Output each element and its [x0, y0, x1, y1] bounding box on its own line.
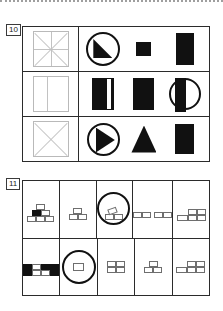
selection-circle-mark — [62, 250, 96, 284]
small-filled-square-icon — [136, 42, 151, 56]
option-cell-two-brick-pairs-row[interactable] — [133, 181, 173, 238]
circle-with-right-pointing-filled-triangle-icon — [87, 123, 120, 156]
options-row — [79, 117, 209, 161]
item-10-matrix-grid — [22, 26, 210, 162]
circle-with-filled-left-half-icon — [169, 78, 201, 110]
filled-rectangle-icon — [133, 78, 154, 110]
circle-with-filled-quarter-wedge-icon — [86, 32, 120, 66]
option-cell-brick-stack-2-1[interactable] — [60, 181, 97, 238]
option-cell[interactable] — [83, 72, 123, 116]
option-cell-brick-block-2x2[interactable] — [98, 239, 135, 296]
brick-block-2x2-icon — [107, 261, 125, 273]
option-row — [23, 239, 209, 296]
option-cell[interactable] — [124, 27, 164, 71]
item-10-block: 10 — [22, 26, 210, 162]
brick-stack-2-1-icon — [144, 261, 162, 273]
brick-stack-2-1-icon — [69, 208, 87, 220]
option-cell-single-brick[interactable] — [60, 239, 97, 296]
options-row — [79, 72, 209, 116]
item-11-block: 11 — [22, 180, 210, 296]
matrix-row — [23, 27, 209, 72]
options-row — [79, 27, 209, 71]
matrix-row — [23, 72, 209, 117]
square-with-vertical-line-icon — [33, 76, 69, 112]
brick-pyramid-3-2-1-icon — [27, 204, 54, 222]
filled-rectangle-icon — [175, 124, 194, 154]
option-cell-brick-stack-2-1[interactable] — [135, 239, 172, 296]
stem-cell[interactable] — [23, 72, 79, 116]
brick-checker-pattern-icon — [23, 264, 59, 276]
scan-edge-dashed-line — [0, 0, 223, 8]
item-11-option-grid — [22, 180, 210, 296]
matrix-row — [23, 117, 209, 161]
two-brick-pairs-row-icon — [133, 212, 172, 218]
stem-cell[interactable] — [23, 117, 79, 161]
option-cell[interactable] — [165, 27, 205, 71]
option-cell[interactable] — [165, 72, 205, 116]
option-cell[interactable] — [124, 72, 164, 116]
option-cell-brick-row-1-plus-2x2[interactable] — [173, 239, 209, 296]
item-number-11: 11 — [6, 178, 20, 190]
option-cell-brick-checker-pattern[interactable] — [23, 239, 60, 296]
option-cell[interactable] — [83, 27, 123, 71]
option-cell-brick-stack-2-plus-tilted[interactable] — [97, 181, 134, 238]
filled-rectangle-with-white-stripe-icon — [92, 78, 114, 110]
stem-cell[interactable] — [23, 27, 79, 71]
brick-row-1-plus-2x2-icon — [177, 209, 206, 221]
option-cell[interactable] — [165, 117, 205, 161]
square-with-cross-and-diagonals-icon — [33, 31, 69, 67]
option-row — [23, 181, 209, 239]
brick-row-1-plus-2x2-icon — [176, 261, 205, 273]
option-cell[interactable] — [124, 117, 164, 161]
option-cell-brick-row-1-plus-2x2[interactable] — [173, 181, 209, 238]
square-with-x-icon — [33, 121, 69, 157]
tall-filled-rectangle-icon — [176, 33, 194, 65]
option-cell-brick-pyramid-3-2-1[interactable] — [23, 181, 60, 238]
item-number-10: 10 — [6, 24, 21, 36]
filled-triangle-icon — [131, 126, 156, 153]
option-cell[interactable] — [83, 117, 123, 161]
